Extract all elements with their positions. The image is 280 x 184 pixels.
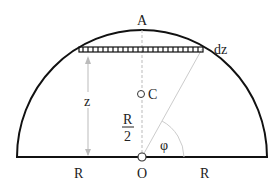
label-centroid: C <box>148 87 157 102</box>
label-origin: O <box>137 166 147 181</box>
centroid-point <box>138 91 145 98</box>
label-apex: A <box>137 13 148 28</box>
origin-point <box>138 153 146 161</box>
diagram: A dz z C R 2 φ O R R <box>0 0 280 184</box>
radius-line <box>142 49 202 157</box>
label-height: z <box>84 94 90 109</box>
strip-dz <box>79 47 203 52</box>
label-left-radius: R <box>74 166 84 181</box>
label-angle: φ <box>160 138 168 153</box>
label-right-radius: R <box>200 166 210 181</box>
label-half-radius-numerator: R <box>123 112 133 127</box>
label-strip: dz <box>214 42 227 57</box>
label-half-radius-denominator: 2 <box>124 129 131 144</box>
